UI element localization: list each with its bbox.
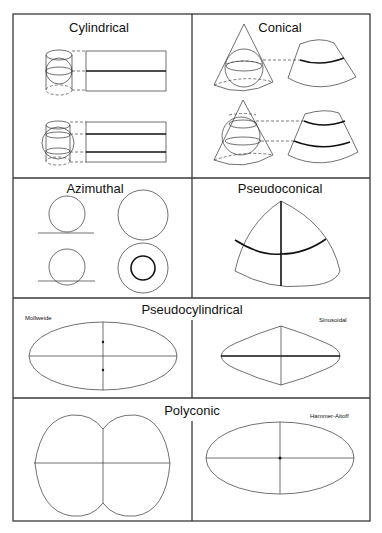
panel-title-cylindrical: Cylindrical xyxy=(69,20,129,35)
panel-title-pseudoconical: Pseudoconical xyxy=(238,181,323,196)
cone-secant-icon xyxy=(214,100,273,165)
conic-map-tangent xyxy=(288,40,356,87)
polyconic-map xyxy=(34,415,170,516)
panel-polyconic: Polyconic Hammer-Aitoff xyxy=(34,403,354,516)
panel-pseudocylindrical: Pseudocylindrical Mollweide Sinusoidal xyxy=(25,302,347,390)
azimuthal-secant-icon xyxy=(38,249,95,285)
panel-pseudoconical: Pseudoconical xyxy=(235,181,340,287)
conic-map-secant xyxy=(288,111,358,163)
azimuthal-map-tangent xyxy=(118,190,168,240)
cylinder-secant-icon xyxy=(42,121,74,165)
panel-conical: Conical xyxy=(214,20,358,165)
sinusoidal-map xyxy=(221,326,340,385)
cylinder-tangent-icon xyxy=(46,50,72,95)
azimuthal-tangent-icon xyxy=(38,196,94,233)
label-mollweide: Mollweide xyxy=(25,315,52,321)
label-sinusoidal: Sinusoidal xyxy=(319,317,347,323)
pseudoconical-map xyxy=(235,201,340,287)
label-hammer-aitoff: Hammer-Aitoff xyxy=(310,413,349,419)
cylindrical-map-secant xyxy=(86,122,166,162)
map-projections-diagram: Cylindrical xyxy=(0,0,382,533)
mollweide-map xyxy=(29,322,177,390)
panel-title-polyconic: Polyconic xyxy=(164,403,220,418)
panel-azimuthal: Azimuthal xyxy=(38,181,168,293)
panel-cylindrical: Cylindrical xyxy=(42,20,166,165)
azimuthal-map-secant xyxy=(118,243,168,293)
hammer-aitoff-map xyxy=(206,422,354,494)
grid-frame xyxy=(13,14,370,521)
panel-title-azimuthal: Azimuthal xyxy=(66,181,123,196)
panel-title-conical: Conical xyxy=(258,20,301,35)
panel-title-pseudocylindrical: Pseudocylindrical xyxy=(141,302,242,317)
